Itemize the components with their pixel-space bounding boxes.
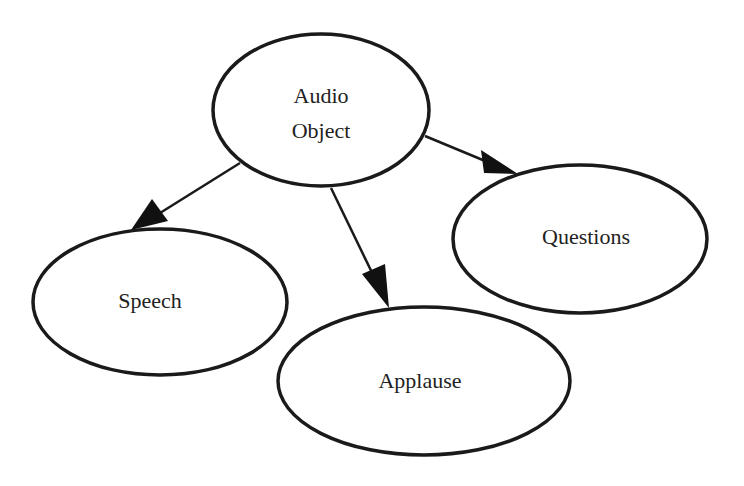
node-audio-object[interactable]: Audio Object	[213, 34, 429, 186]
node-applause[interactable]: Applause	[278, 307, 570, 455]
edge-line	[425, 136, 490, 163]
diagram-canvas: Audio Object Speech Applause Questions	[0, 0, 744, 486]
node-label: Audio	[294, 83, 349, 108]
arrowhead-icon	[131, 199, 168, 230]
arrowhead-icon	[362, 264, 389, 308]
node-label: Questions	[542, 224, 630, 249]
edge-audio-to-applause	[331, 188, 389, 308]
node-speech[interactable]: Speech	[33, 229, 287, 375]
node-label: Applause	[378, 368, 461, 393]
node-label: Speech	[118, 288, 182, 313]
edge-line	[160, 163, 240, 213]
arrowhead-icon	[481, 150, 518, 174]
edge-audio-to-questions	[425, 136, 518, 174]
node-label: Object	[292, 118, 351, 143]
node-questions[interactable]: Questions	[453, 165, 707, 313]
ellipse-shape	[213, 34, 429, 186]
edge-audio-to-speech	[131, 163, 240, 230]
